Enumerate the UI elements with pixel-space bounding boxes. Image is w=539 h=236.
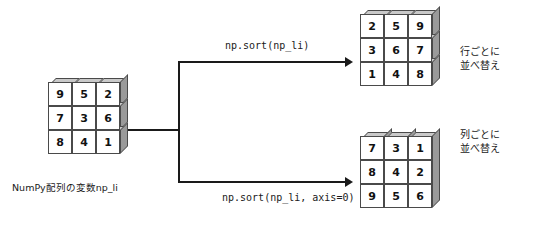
- result-matrix-sort-axis0-cell: 6: [408, 184, 432, 208]
- result-matrix-sort-rows-cell: 1: [360, 62, 384, 86]
- result-matrix-sort-rows-cell: 9: [408, 14, 432, 38]
- source-matrix-cell: 6: [96, 106, 120, 130]
- source-matrix-cell: 1: [96, 130, 120, 154]
- source-matrix-cell: 3: [72, 106, 96, 130]
- result-matrix-sort-axis0-side-face: [432, 128, 440, 208]
- result-matrix-sort-rows-cell: 5: [384, 14, 408, 38]
- connector-stem: [122, 129, 180, 131]
- source-matrix-cell: 2: [96, 82, 120, 106]
- numpy-sort-diagram: 952736841 NumPy配列の変数np_li np.sort(np_li)…: [0, 0, 539, 236]
- result-matrix-sort-axis0-cell: 4: [384, 160, 408, 184]
- result-matrix-sort-rows-cell: 7: [408, 38, 432, 62]
- result-matrix-sort-axis0-cell: 2: [408, 160, 432, 184]
- note-sort-rows: 行ごとに 並べ替え: [460, 45, 500, 72]
- note-sort-axis0-line1: 列ごとに: [460, 128, 500, 142]
- source-matrix: 952736841: [48, 82, 128, 162]
- source-matrix-cell: 4: [72, 130, 96, 154]
- result-matrix-sort-rows-cell: 8: [408, 62, 432, 86]
- note-sort-rows-line2: 並べ替え: [460, 59, 500, 73]
- result-matrix-sort-rows-cell: 3: [360, 38, 384, 62]
- source-matrix-cell: 9: [48, 82, 72, 106]
- result-matrix-sort-rows-cell: 6: [384, 38, 408, 62]
- code-label-sort-axis0: np.sort(np_li, axis=0): [222, 192, 354, 203]
- result-matrix-sort-axis0-cell: 7: [360, 136, 384, 160]
- source-matrix-cell: 8: [48, 130, 72, 154]
- arrow-head-sort-rows: [345, 57, 353, 67]
- result-matrix-sort-axis0-cell: 5: [384, 184, 408, 208]
- source-matrix-cell: 5: [72, 82, 96, 106]
- result-matrix-sort-rows-cell: 4: [384, 62, 408, 86]
- arrow-head-sort-axis0: [345, 177, 353, 187]
- note-sort-rows-line1: 行ごとに: [460, 45, 500, 59]
- result-matrix-sort-axis0: 731842956: [360, 136, 440, 216]
- note-sort-axis0-line2: 並べ替え: [460, 142, 500, 156]
- note-sort-axis0: 列ごとに 並べ替え: [460, 128, 500, 155]
- result-matrix-sort-rows: 259367148: [360, 14, 440, 94]
- source-matrix-caption: NumPy配列の変数np_li: [12, 180, 118, 194]
- result-matrix-sort-rows-cell: 2: [360, 14, 384, 38]
- result-matrix-sort-axis0-cell: 1: [408, 136, 432, 160]
- result-matrix-sort-axis0-cell: 3: [384, 136, 408, 160]
- result-matrix-sort-axis0-cell: 8: [360, 160, 384, 184]
- code-label-sort-rows: np.sort(np_li): [225, 40, 309, 51]
- branch-line-sort-rows: [178, 61, 346, 63]
- connector-trunk-up: [178, 61, 180, 131]
- branch-line-sort-axis0: [178, 181, 346, 183]
- connector-trunk-down: [178, 129, 180, 181]
- result-matrix-sort-axis0-cell: 9: [360, 184, 384, 208]
- source-matrix-cell: 7: [48, 106, 72, 130]
